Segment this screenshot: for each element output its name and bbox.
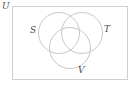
venn-diagram-canvas (0, 0, 133, 85)
set-label-s: S (30, 26, 36, 35)
set-circle-s (39, 13, 80, 54)
set-circle-t (62, 13, 103, 54)
set-circle-v (50, 28, 91, 69)
set-label-v: V (78, 66, 85, 75)
venn-diagram-figure: U S T V (0, 0, 133, 85)
universe-label: U (2, 2, 10, 11)
set-label-t: T (104, 25, 110, 34)
